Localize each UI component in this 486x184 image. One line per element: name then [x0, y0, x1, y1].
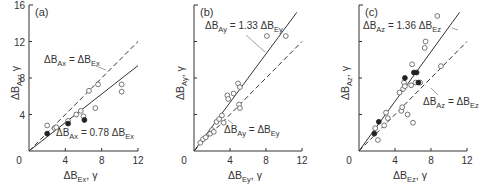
- equation-annotation: ΔBAx = ΔBEx: [44, 54, 100, 68]
- data-point-open: [422, 45, 427, 50]
- panel-b: 48120(b)ΔBEy, γΔBAy, γ: [174, 5, 308, 184]
- figure: 48124812160(a)ΔBEx, γΔBAx, γ48120(b)ΔBEy…: [0, 0, 486, 184]
- data-point-open: [74, 112, 79, 117]
- data-point-open: [231, 91, 236, 96]
- data-point-open: [373, 126, 378, 131]
- data-point-open: [119, 82, 124, 87]
- x-tick-label: 8: [263, 155, 269, 166]
- equation-annotation: ΔBAz = ΔBEz: [423, 96, 479, 110]
- origin-label: 0: [346, 155, 352, 166]
- data-point-filled: [414, 70, 419, 75]
- origin-label: 0: [16, 155, 22, 166]
- data-point-open: [238, 106, 243, 111]
- origin-label: 0: [181, 155, 187, 166]
- equation-annotation: ΔBAy = ΔBEy: [224, 124, 280, 138]
- data-point-open: [400, 105, 405, 110]
- x-axis-label: ΔBEy, γ: [228, 169, 263, 184]
- data-point-open: [411, 120, 416, 125]
- annotation-leader: [96, 66, 106, 70]
- equation-annotation: ΔBAx = 0.78 ΔBEx: [56, 127, 134, 141]
- y-axis-label: ΔBAy, γ: [174, 66, 189, 100]
- data-point-open: [220, 113, 225, 118]
- x-tick-label: 12: [296, 155, 308, 166]
- x-tick-label: 4: [392, 155, 398, 166]
- data-point-open: [87, 88, 92, 93]
- panel-a: 48124812160(a)ΔBEx, γΔBAx, γ: [9, 0, 144, 184]
- data-point-open: [283, 34, 288, 39]
- regression-line: [29, 66, 138, 151]
- data-point-open: [238, 85, 243, 90]
- data-point-open: [423, 39, 428, 44]
- data-point-open: [203, 135, 208, 140]
- data-point-filled: [416, 80, 421, 85]
- data-point-open: [78, 108, 83, 113]
- x-tick-label: 12: [461, 155, 473, 166]
- scatter-panels: 48124812160(a)ΔBEx, γΔBAx, γ48120(b)ΔBEy…: [0, 0, 486, 184]
- x-axis-label: ΔBEz, γ: [393, 169, 428, 184]
- data-point-open: [265, 34, 270, 39]
- x-tick-label: 4: [63, 155, 69, 166]
- x-tick-label: 4: [227, 155, 233, 166]
- data-point-open: [409, 83, 414, 88]
- annotation-leader: [246, 35, 265, 52]
- data-point-open: [410, 62, 415, 67]
- y-axis-label: ΔBAx, γ: [9, 65, 24, 100]
- panel-label: (c): [365, 6, 378, 18]
- data-point-open: [385, 116, 390, 121]
- data-point-open: [211, 129, 216, 134]
- y-axis-label: ΔBAz, γ: [339, 65, 354, 100]
- data-point-open: [45, 123, 50, 128]
- data-point-open: [93, 106, 98, 111]
- y-tick-label: 16: [14, 0, 26, 11]
- x-tick-label: 8: [99, 155, 105, 166]
- data-point-filled: [372, 131, 377, 136]
- panel-label: (b): [200, 6, 213, 18]
- y-tick-label: 4: [19, 110, 25, 121]
- data-point-filled: [45, 131, 50, 136]
- data-point-open: [435, 14, 440, 19]
- equation-annotation: ΔBAy = 1.33 ΔBEy: [205, 20, 283, 34]
- data-point-open: [226, 97, 231, 102]
- x-tick-label: 8: [428, 155, 434, 166]
- panel-label: (a): [35, 6, 48, 18]
- y-tick-label: 12: [14, 37, 26, 48]
- annotation-leader: [452, 28, 458, 30]
- data-point-open: [382, 123, 387, 128]
- data-point-open: [439, 64, 444, 69]
- data-point-filled: [66, 121, 71, 126]
- data-point-open: [384, 110, 389, 115]
- data-point-filled: [82, 118, 87, 123]
- data-point-open: [96, 82, 101, 87]
- panel-c: 48120(c)ΔBEz, γΔBAz, γ: [339, 5, 473, 184]
- data-point-open: [405, 112, 410, 117]
- data-point-open: [403, 84, 408, 89]
- x-axis-label: ΔBEx, γ: [64, 169, 99, 184]
- x-tick-label: 12: [132, 155, 144, 166]
- data-point-filled: [376, 119, 381, 124]
- data-point-filled: [403, 76, 408, 81]
- annotation-leader: [431, 88, 438, 95]
- data-point-open: [119, 89, 124, 94]
- equation-annotation: ΔBAz = 1.36 ΔBEz: [363, 20, 441, 34]
- data-point-open: [376, 138, 381, 143]
